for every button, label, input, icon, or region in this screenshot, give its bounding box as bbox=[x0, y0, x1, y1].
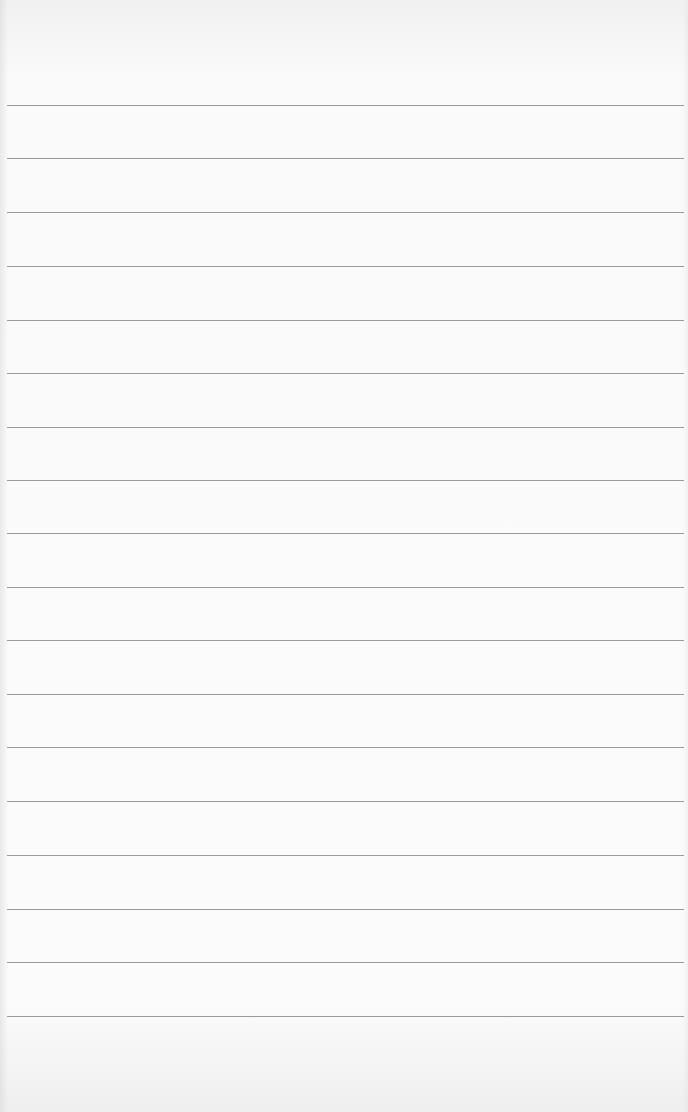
ruled-paper-sheet bbox=[0, 0, 688, 1112]
ruled-line bbox=[7, 909, 684, 910]
ruled-line bbox=[7, 855, 684, 856]
ruled-line bbox=[7, 747, 684, 748]
ruled-line bbox=[7, 212, 684, 213]
ruled-line bbox=[7, 1016, 684, 1017]
ruled-line bbox=[7, 105, 684, 106]
ruled-line bbox=[7, 801, 684, 802]
ruled-line bbox=[7, 480, 684, 481]
ruled-line bbox=[7, 158, 684, 159]
ruled-line bbox=[7, 587, 684, 588]
ruled-line bbox=[7, 266, 684, 267]
ruled-line bbox=[7, 320, 684, 321]
ruled-line bbox=[7, 962, 684, 963]
ruled-line bbox=[7, 694, 684, 695]
ruled-line bbox=[7, 533, 684, 534]
ruled-line bbox=[7, 373, 684, 374]
ruled-line bbox=[7, 427, 684, 428]
ruled-line bbox=[7, 640, 684, 641]
